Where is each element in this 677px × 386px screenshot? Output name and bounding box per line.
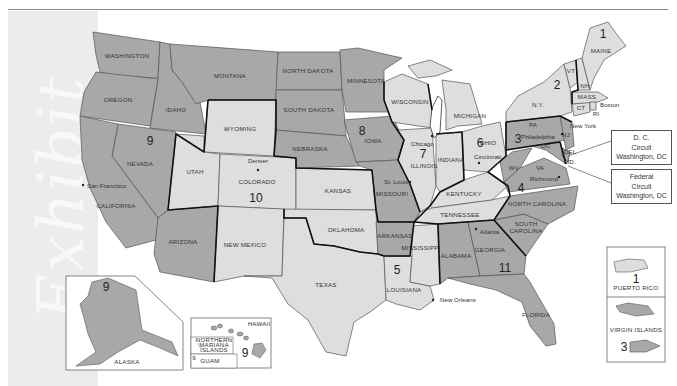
state-new-york	[506, 64, 572, 122]
cities-san-francisco-label: San Francisco	[87, 182, 127, 189]
map-shape	[561, 133, 563, 135]
state-labels-kentucky-label: KENTUCKY	[446, 190, 481, 197]
map-shape	[218, 324, 223, 328]
state-labels-washington-label: WASHINGTON	[105, 52, 149, 59]
map-shape	[257, 169, 259, 171]
state-labels-wisconsin-label: WISCONSIN	[391, 98, 429, 105]
state-labels-indiana-label: INDIANA	[438, 156, 465, 163]
state-labels-new-york-label: N.Y.	[532, 101, 544, 108]
circuit-numbers-guam-label: 9	[192, 354, 196, 361]
state-labels-oklahoma-label: OKLAHOMA	[328, 226, 365, 233]
circuit-numbers-c8-label: 8	[359, 124, 366, 138]
state-labels-arkansas-label: ARKANSAS	[377, 232, 412, 239]
state-labels-alabama-label: ALABAMA	[441, 252, 472, 259]
cities-philadelphia-label: Philadelphia	[521, 133, 555, 140]
state-labels-massachusetts-label: MASS	[578, 93, 596, 100]
state-labels-nebraska-label: NEBRASKA	[292, 145, 328, 152]
map-shape	[244, 336, 249, 340]
circuit-numbers-c2-label: 2	[554, 78, 561, 92]
state-labels-virginia-label: VA	[536, 164, 545, 171]
state-labels-florida-label: FLORIDA	[522, 311, 551, 318]
state-labels-new-mexico-label: NEW MEXICO	[224, 241, 267, 248]
state-labels-hawaii-label: HAWAII	[248, 320, 271, 327]
lake-michigan	[430, 96, 442, 138]
state-florida	[448, 274, 556, 346]
map-shape	[211, 326, 217, 330]
state-labels-maine-label: MAINE	[591, 47, 612, 54]
state-labels-west-virginia-label: WV	[509, 164, 520, 171]
state-mississippi	[410, 224, 440, 286]
state-labels-north-dakota-label: NORTH DAKOTA	[283, 67, 335, 74]
circuit-numbers-hawaii-label: 9	[242, 346, 249, 360]
state-labels-colorado-label: COLORADO	[238, 178, 275, 185]
map-shape	[568, 166, 611, 183]
state-labels-wyoming-label: WYOMING	[224, 125, 256, 132]
state-labels-minnesota-label: MINNESOTA	[347, 77, 386, 84]
map-shape	[82, 184, 84, 186]
cities-atlanta-label: Atlanta	[480, 228, 500, 235]
state-labels-dc-label: DC	[541, 142, 551, 149]
state-labels-louisiana-label: LOUISIANA	[387, 286, 422, 293]
cities-new-orleans-label: New Orleans	[440, 296, 476, 303]
dc-circuit-callout: D. C. Circuit Washington, DC	[611, 130, 672, 165]
map-shape	[229, 329, 234, 333]
circuit-numbers-c7-label: 7	[420, 147, 427, 161]
map-shape	[431, 135, 433, 137]
cities-richmond-label: Richmond	[530, 175, 558, 182]
state-labels-maryland-label: MD.	[564, 158, 576, 165]
state-ohio	[462, 122, 506, 172]
cities-cincinnati-label: Cincinnati	[474, 153, 501, 160]
state-labels-new-hampshire-label: NH	[580, 82, 589, 89]
state-labels-georgia-label: GEORGIA	[475, 246, 506, 253]
state-labels-texas-label: TEXAS	[315, 281, 336, 288]
circuit-numbers-c11-label: 11	[499, 261, 512, 275]
state-labels-northern-mariana-3-label: ISLANDS	[200, 346, 228, 353]
state-labels-rhode-island-label: RI	[593, 110, 600, 117]
federal-circuit-callout: Federal Circuit Washington, DC	[611, 169, 672, 204]
circuit-numbers-c5-label: 5	[394, 263, 401, 277]
map-shape	[432, 299, 434, 301]
circuit-numbers-c10-label: 10	[249, 191, 263, 205]
state-labels-delaware-label: DEL	[564, 148, 577, 155]
circuit-numbers-c6-label: 6	[477, 136, 484, 150]
state-labels-kansas-label: KANSAS	[325, 187, 351, 194]
state-labels-virgin-islands-label: VIRGIN ISLANDS	[610, 326, 662, 333]
state-labels-oregon-label: OREGON	[104, 96, 133, 103]
state-labels-tennessee-label: TENNESSEE	[440, 211, 479, 218]
caribbean-inset	[607, 247, 665, 362]
state-labels-new-jersey-label: NJ	[562, 131, 570, 138]
state-labels-arizona-label: ARIZONA	[169, 238, 199, 245]
cities-denver-label: Denver	[248, 157, 268, 164]
state-labels-guam-label: GUAM	[200, 357, 219, 364]
map-shape	[478, 162, 480, 164]
state-labels-iowa-label: IOWA	[364, 137, 382, 144]
state-labels-north-carolina-label: NORTH CAROLINA	[508, 200, 567, 207]
state-labels-missouri-label: MISSOURI	[376, 190, 408, 197]
state-labels-michigan-label: MICHIGAN	[454, 112, 487, 119]
circuits-map: WASHINGTON OREGON IDAHO MONTANA NEVADA C…	[0, 0, 677, 386]
circuit-numbers-c1-label: 1	[600, 27, 607, 41]
cities-boston-label: Boston	[600, 101, 620, 108]
alaska-inset	[66, 276, 183, 370]
state-labels-connecticut-label: CT	[577, 104, 586, 111]
map-shape	[558, 176, 560, 178]
state-labels-illinois-label: ILLINOIS	[410, 162, 437, 169]
cities-chicago-label: Chicago	[411, 140, 434, 147]
state-labels-pennsylvania-label: PA	[529, 121, 538, 128]
map-shape	[237, 332, 243, 336]
map-shape	[475, 228, 477, 230]
circuit-numbers-puerto-rico-label: 1	[633, 272, 640, 286]
state-rhode-island	[590, 102, 596, 110]
state-labels-utah-label: UTAH	[186, 168, 203, 175]
circuit-numbers-c4-label: 4	[518, 181, 525, 195]
circuit-numbers-virgin-islands-label: 3	[621, 340, 628, 354]
state-labels-south-carolina-2-label: CAROLINA	[509, 227, 543, 234]
state-labels-montana-label: MONTANA	[214, 72, 247, 79]
state-labels-nevada-label: NEVADA	[127, 160, 154, 167]
state-labels-south-dakota-label: SOUTH DAKOTA	[284, 106, 335, 113]
circuit-numbers-c9-label: 9	[147, 134, 154, 148]
cities-st-louis-label: St. Louis	[384, 178, 408, 185]
circuit-numbers-alaska-label: 9	[103, 280, 110, 294]
map-shape	[409, 181, 411, 183]
circuit-numbers-c3-label: 3	[515, 132, 522, 146]
